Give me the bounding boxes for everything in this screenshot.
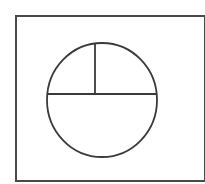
diagram-canvas xyxy=(0,0,205,184)
circle-shape xyxy=(47,43,157,157)
